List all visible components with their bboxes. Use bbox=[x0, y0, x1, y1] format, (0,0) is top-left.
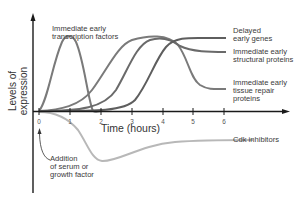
curve-transcription-factors bbox=[39, 36, 101, 112]
x-tick-0: 0 bbox=[37, 118, 41, 125]
x-tick-4: 4 bbox=[161, 118, 165, 125]
annotation-serum-addition: Addition of serum or growth factor bbox=[50, 155, 94, 180]
label-transcription-factors: Immediate early transcription factors bbox=[52, 25, 118, 41]
annotation-arrowhead-icon bbox=[38, 128, 42, 134]
x-tick-1: 1 bbox=[68, 118, 72, 125]
label-cdk-inhibitors: Cdk inhibitors bbox=[233, 136, 279, 144]
curve-delayed-early-genes bbox=[39, 38, 226, 111]
x-tick-2: 2 bbox=[99, 118, 103, 125]
curve-tissue-repair bbox=[39, 36, 226, 111]
x-axis-arrow-icon bbox=[282, 109, 290, 114]
label-structural-proteins: Immediate early structural proteins bbox=[233, 48, 293, 64]
y-axis-arrow-icon bbox=[31, 13, 36, 21]
x-tick-5: 5 bbox=[191, 118, 195, 125]
label-delayed-early-genes: Delayed early genes bbox=[233, 27, 272, 43]
x-tick-6: 6 bbox=[222, 118, 226, 125]
annotation-arrow bbox=[40, 134, 51, 160]
y-axis-label: Levels of expression bbox=[7, 46, 29, 136]
x-tick-3: 3 bbox=[130, 118, 134, 125]
label-tissue-repair-proteins: Immediate early tissue repair proteins bbox=[233, 79, 287, 104]
gene-expression-diagram: Levels of expression Time (hours) 0 1 2 … bbox=[0, 0, 307, 204]
curve-structural-proteins bbox=[39, 38, 226, 111]
